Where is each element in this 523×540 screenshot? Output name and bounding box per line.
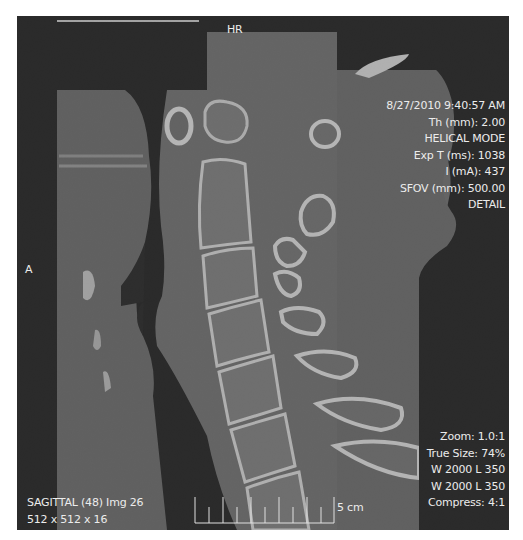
scan-mode: HELICAL MODE [386,131,505,148]
window-level-1: W 2000 L 350 [427,462,505,479]
scale-bar-ruler [194,493,336,527]
acquisition-info: 8/27/2010 9:40:57 AM Th (mm): 2.00 HELIC… [386,98,505,214]
study-datetime: 8/27/2010 9:40:57 AM [386,98,505,115]
series-image-number: SAGITTAL (48) Img 26 [27,495,143,512]
window-level-2: W 2000 L 350 [427,479,505,496]
matrix-size: 512 x 512 x 16 [27,512,143,529]
sfov: SFOV (mm): 500.00 [386,181,505,198]
orientation-anterior-label: A [25,262,32,279]
ct-image-viewport[interactable]: HR A 8/27/2010 9:40:57 AM Th (mm): 2.00 … [17,16,509,530]
true-size: True Size: 74% [427,446,505,463]
scale-bar-label: 5 cm [337,500,363,517]
tube-current: I (mA): 437 [386,164,505,181]
hr-label: HR [227,22,243,39]
zoom-level: Zoom: 1.0:1 [427,429,505,446]
slice-thickness: Th (mm): 2.00 [386,115,505,132]
reconstruction-kernel: DETAIL [386,197,505,214]
exposure-time: Exp T (ms): 1038 [386,148,505,165]
series-info: SAGITTAL (48) Img 26 512 x 512 x 16 [27,495,143,528]
compression: Compress: 4:1 [427,495,505,512]
display-info: Zoom: 1.0:1 True Size: 74% W 2000 L 350 … [427,429,505,512]
